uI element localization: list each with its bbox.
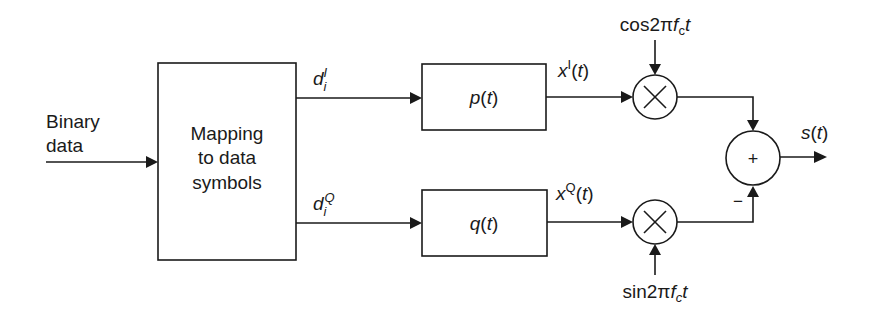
cos-carrier-label: cos2πfct [620, 14, 691, 38]
s-output-label: s(t) [801, 122, 828, 143]
mapping-label-line1: Mapping [191, 123, 264, 144]
sin-carrier-label: sin2πfct [622, 281, 688, 305]
di-I-arrowhead-icon [410, 92, 422, 104]
di-I-label: diI [313, 65, 328, 94]
minus-sign: − [733, 192, 743, 211]
i-to-summer-line [677, 97, 753, 122]
mapping-label-line2: to data [198, 147, 257, 168]
multiplier-i [633, 75, 677, 119]
i-summer-arrowhead-icon [747, 120, 759, 131]
binary-data-input: Binary data [46, 111, 158, 168]
output-arrowhead-icon [814, 151, 827, 163]
p-filter-label: p(t) [469, 87, 499, 108]
xQ-label: xQ(t) [555, 180, 594, 204]
mapping-block: Mapping to data symbols [158, 63, 296, 260]
di-Q-arrowhead-icon [410, 217, 422, 229]
binary-data-label-line2: data [46, 135, 83, 156]
quadrature-branch: diQ q(t) xQ(t) sin2πfct − [296, 180, 759, 305]
binary-data-label-line1: Binary [46, 111, 100, 132]
in-phase-branch: diI p(t) xI(t) cos2πfct [296, 14, 759, 131]
xI-arrowhead-icon [621, 91, 633, 103]
xQ-arrowhead-icon [621, 216, 633, 228]
cos-arrowhead-icon [649, 64, 661, 75]
summer: + s(t) [726, 122, 828, 185]
input-arrowhead-icon [146, 156, 158, 168]
sin-arrowhead-icon [649, 244, 661, 255]
plus-icon: + [748, 149, 759, 169]
q-filter-label: q(t) [470, 213, 499, 234]
q-summer-arrowhead-icon [747, 186, 759, 197]
mapping-label-line3: symbols [192, 172, 262, 193]
xI-label: xI(t) [557, 57, 589, 81]
modulator-block-diagram: Binary data Mapping to data symbols diI … [0, 0, 874, 316]
multiplier-q [633, 200, 677, 244]
di-Q-label: diQ [313, 190, 335, 219]
